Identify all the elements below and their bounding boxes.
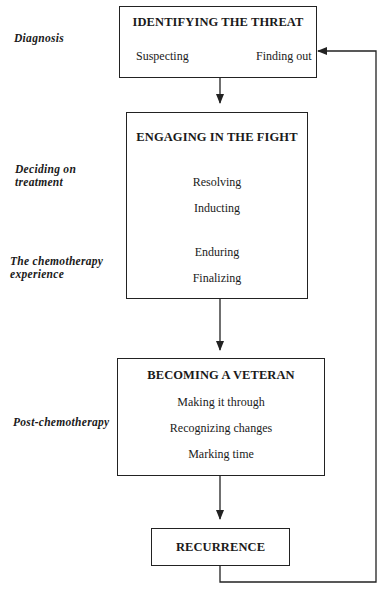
stage-title: BECOMING A VETERAN [118,368,324,383]
stage-box-identifying-the-threat: IDENTIFYING THE THREAT Suspecting Findin… [119,6,317,78]
stage-item-resolving: Resolving [127,175,307,190]
phase-label-line: experience [10,268,103,281]
phase-label-chemotherapy-experience: The chemotherapy experience [10,255,103,281]
phase-label-post-chemotherapy: Post-chemotherapy [13,416,109,429]
phase-label-line: Deciding on [15,163,76,176]
stage-item-marking-time: Marking time [118,447,324,462]
stage-item-finalizing: Finalizing [127,271,307,286]
phase-label-deciding-on-treatment: Deciding on treatment [15,163,76,189]
phase-label-line: The chemotherapy [10,255,103,268]
stage-box-recurrence: RECURRENCE [151,528,290,566]
stage-item-recognizing-changes: Recognizing changes [118,421,324,436]
stage-item-finding-out: Finding out [256,49,312,64]
stage-title: ENGAGING IN THE FIGHT [127,130,307,145]
phase-label-line: treatment [15,176,76,189]
stage-item-suspecting: Suspecting [136,49,189,64]
stage-box-engaging-in-the-fight: ENGAGING IN THE FIGHT Resolving Inductin… [126,112,308,299]
stage-item-making-it-through: Making it through [118,395,324,410]
stage-title: IDENTIFYING THE THREAT [120,15,316,30]
stage-title: RECURRENCE [152,540,289,555]
stage-item-enduring: Enduring [127,245,307,260]
stage-item-inducting: Inducting [127,201,307,216]
phase-label-diagnosis: Diagnosis [14,32,64,45]
stage-box-becoming-a-veteran: BECOMING A VETERAN Making it through Rec… [117,358,325,476]
